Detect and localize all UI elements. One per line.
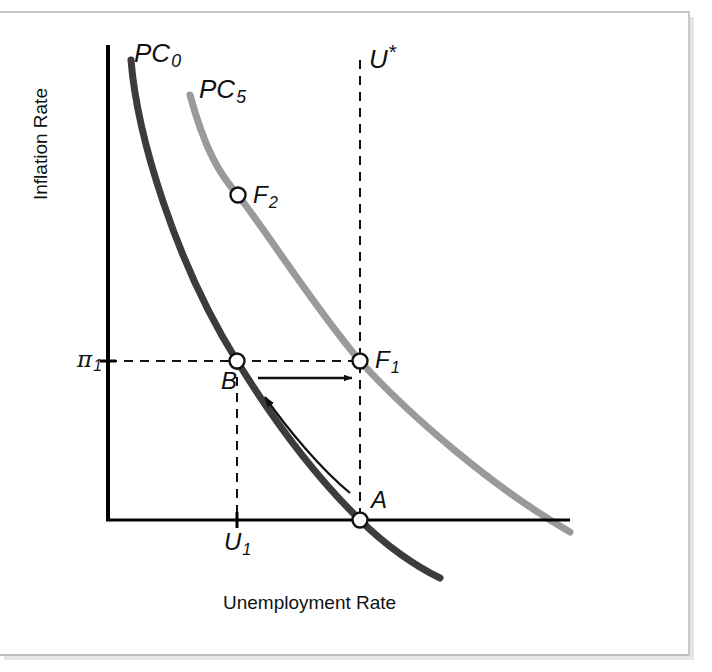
- tick-label-u1: U1: [224, 530, 251, 557]
- x-axis-title: Unemployment Rate: [223, 592, 396, 614]
- point-label-f2: F2: [253, 183, 278, 210]
- axes: [100, 45, 570, 528]
- curve-pc0: [131, 60, 440, 578]
- curve-label-pc0: PC0: [134, 40, 181, 71]
- point-label-f1: F1: [375, 348, 400, 375]
- chart-canvas: [0, 0, 712, 672]
- reference-label-ustar: U*: [369, 42, 397, 72]
- phillips-curve-chart: PC0 PC5 U* F2 F1 B A U1 π1 Inflation Rat…: [0, 0, 712, 672]
- tick-label-pi1: π1: [77, 348, 102, 374]
- data-point-markers: [230, 188, 368, 528]
- point-marker-f2[interactable]: [231, 188, 246, 203]
- arrow-a-to-b: [265, 397, 350, 493]
- curve-label-pc5: PC5: [199, 76, 246, 107]
- annotation-arrows: [258, 378, 352, 493]
- point-label-a: A: [371, 488, 387, 512]
- point-label-b: B: [221, 369, 237, 393]
- point-marker-f1[interactable]: [353, 354, 368, 369]
- point-marker-a[interactable]: [353, 513, 368, 528]
- y-axis-title: Inflation Rate: [30, 30, 52, 200]
- reference-lines: [108, 60, 360, 520]
- curve-pc5: [190, 95, 570, 532]
